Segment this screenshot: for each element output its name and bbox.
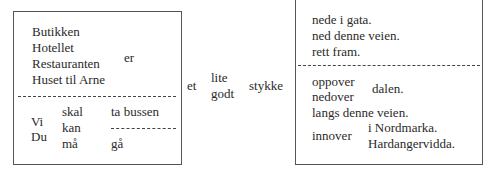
subject-option: Restauranten: [32, 56, 100, 71]
dashed-divider: [111, 128, 176, 129]
dashed-divider: [18, 96, 176, 97]
direction-object: dalen.: [372, 81, 403, 96]
location-phrase: ned denne veien.: [312, 28, 400, 43]
location-phrase: langs denne veien.: [312, 105, 408, 120]
direction-option: oppover: [312, 74, 355, 89]
action-option: ta bussen: [111, 104, 159, 119]
noun: stykke: [249, 78, 283, 93]
subject-option: Huset til Arne: [32, 72, 105, 87]
subject-option: Butikken: [32, 24, 80, 39]
direction-option: nedover: [312, 89, 354, 104]
article: et: [187, 78, 196, 93]
adjective-option: godt: [211, 86, 234, 101]
action-option: gå: [111, 136, 123, 151]
location-phrase: nede i gata.: [312, 12, 372, 27]
location-option: Hardangervidda.: [368, 136, 455, 151]
dashed-divider: [298, 65, 480, 66]
modal-option: må: [62, 136, 78, 151]
location-phrase: rett fram.: [312, 44, 360, 59]
modal-option: skal: [62, 104, 83, 119]
subject-option: Hotellet: [32, 40, 74, 55]
pronoun-option: Vi: [31, 114, 43, 129]
location-option: i Nordmarka.: [368, 120, 437, 135]
modal-option: kan: [62, 120, 81, 135]
direction-option: innover: [312, 128, 352, 143]
adjective-option: lite: [211, 70, 228, 85]
verb: er: [124, 50, 134, 65]
pronoun-option: Du: [31, 129, 47, 144]
